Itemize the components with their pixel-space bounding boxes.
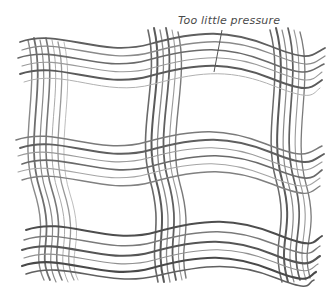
crosshatch-grid-drawing (0, 0, 335, 294)
annotation-label: Too little pressure (178, 14, 280, 27)
sketch-illustration: Too little pressure (0, 0, 335, 294)
